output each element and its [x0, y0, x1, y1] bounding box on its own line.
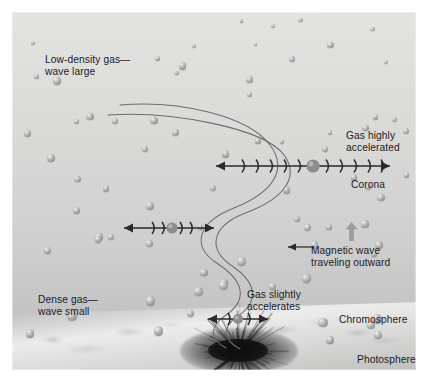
illustration-page: Low-density gas— wave large Dense gas— w…: [0, 0, 435, 381]
label-gas-highly-accelerated: Gas highly accelerated: [346, 130, 400, 155]
label-corona: Corona: [351, 179, 385, 191]
label-gas-slightly-accelerates: Gas slightly accelerates: [247, 289, 301, 314]
label-dense-gas: Dense gas— wave small: [38, 294, 98, 319]
label-photosphere: Photosphere: [357, 354, 416, 366]
solar-atmosphere-illustration: Low-density gas— wave large Dense gas— w…: [12, 12, 416, 370]
label-chromosphere: Chromosphere: [339, 314, 408, 326]
outward-direction-arrow-icon: [345, 222, 358, 241]
oscillation-arrow-corona: [208, 155, 398, 177]
label-magnetic-wave: Magnetic wave traveling outward: [311, 245, 390, 270]
oscillation-arrow-chromosphere: [118, 217, 220, 239]
label-low-density-gas: Low-density gas— wave large: [45, 54, 130, 79]
